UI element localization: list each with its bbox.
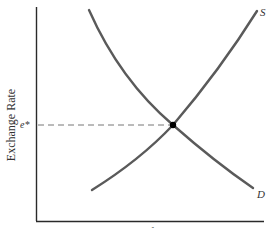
equilibrium-label: e* [20, 119, 29, 130]
y-axis-title: Exchange Rate [4, 89, 18, 161]
supply-curve [92, 11, 257, 190]
supply-label: S [260, 6, 266, 18]
demand-curve [89, 10, 253, 188]
supply-demand-chart: S D e* Exchange Rate Quantity of Currenc… [0, 0, 274, 228]
equilibrium-point [170, 122, 176, 128]
x-axis-title: Quantity of Currency [99, 225, 202, 228]
demand-label: D [256, 188, 265, 200]
